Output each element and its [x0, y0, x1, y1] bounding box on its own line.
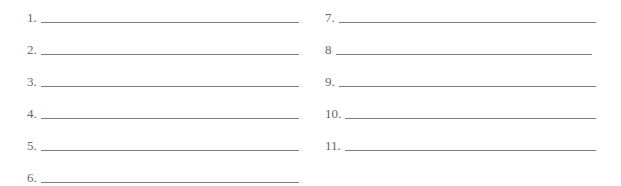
- item-number: 6.: [27, 171, 41, 185]
- item-number: 2.: [27, 43, 41, 57]
- answer-blank[interactable]: [41, 118, 299, 119]
- answer-blank[interactable]: [41, 182, 299, 183]
- answer-blank[interactable]: [339, 22, 596, 23]
- blank-row-9: 9.: [325, 69, 596, 89]
- item-number: 11.: [325, 139, 345, 153]
- item-number: 8: [325, 43, 336, 57]
- answer-blank[interactable]: [41, 22, 299, 23]
- answer-blank[interactable]: [41, 150, 299, 151]
- answer-blank[interactable]: [345, 118, 596, 119]
- answer-blank[interactable]: [336, 54, 593, 55]
- item-number: 10.: [325, 107, 345, 121]
- item-number: 9.: [325, 75, 339, 89]
- answer-blank[interactable]: [339, 86, 596, 87]
- item-number: 4.: [27, 107, 41, 121]
- item-number: 7.: [325, 11, 339, 25]
- blank-row-4: 4.: [27, 101, 299, 121]
- answer-blank[interactable]: [345, 150, 596, 151]
- item-number: 3.: [27, 75, 41, 89]
- blank-row-6: 6.: [27, 165, 299, 185]
- blank-row-5: 5.: [27, 133, 299, 153]
- blank-row-2: 2.: [27, 37, 299, 57]
- blank-row-8: 8: [325, 37, 596, 57]
- blank-row-7: 7.: [325, 5, 596, 25]
- answer-blank[interactable]: [41, 86, 299, 87]
- item-number: 1.: [27, 11, 41, 25]
- blank-row-11: 11.: [325, 133, 596, 153]
- item-number: 5.: [27, 139, 41, 153]
- blank-row-3: 3.: [27, 69, 299, 89]
- answer-blank[interactable]: [41, 54, 299, 55]
- blank-row-1: 1.: [27, 5, 299, 25]
- blank-row-10: 10.: [325, 101, 596, 121]
